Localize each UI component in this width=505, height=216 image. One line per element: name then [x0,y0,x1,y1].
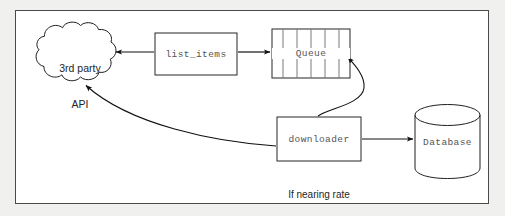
edge-downloader-to-api [86,86,276,147]
node-list-items [155,33,237,75]
cloud-shape [36,22,116,81]
node-database [415,105,480,179]
database-cylinder-top [415,105,480,126]
diagram-canvas [0,0,505,216]
downloader-box [277,117,361,161]
node-downloader [277,117,361,161]
page-background: 3rd party API list_items Queue downloade… [0,0,505,216]
list-items-box [155,33,237,75]
node-queue [272,29,350,78]
node-third-party-api [36,22,116,81]
